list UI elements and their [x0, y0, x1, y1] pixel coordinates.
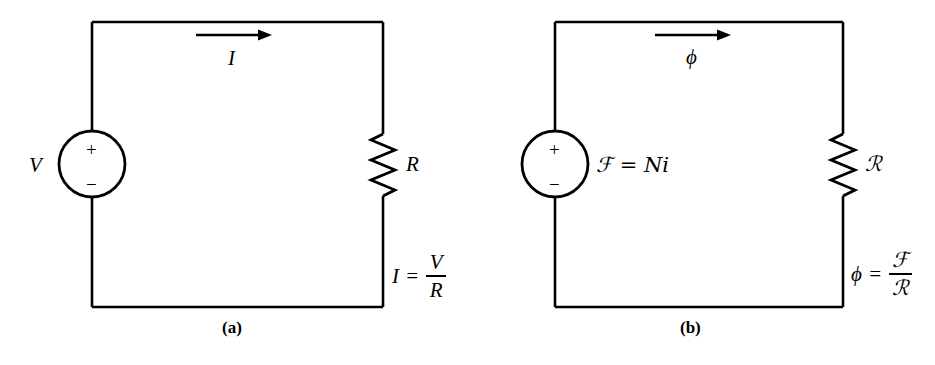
equation-numerator: ℱ [889, 250, 912, 273]
equation-equals: = [868, 264, 882, 285]
panel-magnetic-circuit: + − ℱ = Ni ϕ ℛ ϕ = ℱ ℛ (b) [465, 0, 932, 365]
equation-equals: = [405, 266, 419, 287]
equation-denominator: ℛ [889, 275, 912, 299]
reluctance-label: ℛ [865, 154, 882, 175]
mmf-source-plus-sign: + [549, 140, 560, 159]
voltage-source-minus-sign: − [86, 175, 97, 194]
ohms-law-equation: I = V R [392, 252, 446, 301]
panel-caption-b: (b) [680, 318, 701, 338]
equation-lhs: ϕ [851, 264, 862, 285]
equation-lhs: I [392, 266, 399, 287]
equation-numerator: V [427, 252, 446, 275]
voltage-source-label: V [29, 155, 42, 176]
flux-arrow-label: ϕ [686, 47, 697, 68]
equation-denominator: R [427, 277, 446, 301]
mmf-source-label: ℱ = Ni [596, 155, 669, 176]
current-arrow-label: I [228, 48, 235, 69]
resistor-zigzag [371, 134, 395, 196]
voltage-source-plus-sign: + [86, 140, 97, 159]
reluctance-zigzag [831, 134, 855, 196]
magnetic-ohms-law-equation: ϕ = ℱ ℛ [851, 250, 912, 299]
equation-fraction: V R [426, 252, 446, 301]
flux-arrow-glyph [655, 30, 731, 41]
panel-electric-circuit: + − V I R I = V R (a) [0, 0, 467, 365]
mmf-source-minus-sign: − [549, 175, 560, 194]
current-arrow-glyph [196, 30, 272, 41]
equation-fraction: ℱ ℛ [889, 250, 912, 299]
panel-caption-a: (a) [222, 318, 242, 338]
figure-root: + − V I R I = V R (a) [0, 0, 935, 365]
resistor-label: R [406, 154, 419, 175]
magnetic-circuit-drawing [465, 0, 932, 365]
